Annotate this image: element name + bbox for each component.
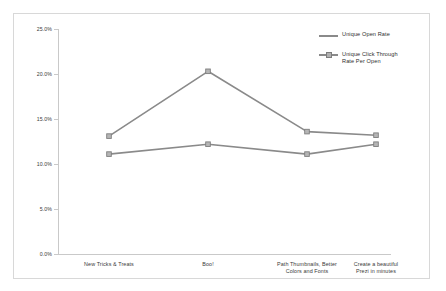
- y-tick-0: [54, 254, 58, 255]
- legend-label-1: Unique Click Through Rate Per Open: [342, 51, 398, 66]
- data-point-marker[interactable]: [206, 142, 211, 147]
- legend-line-square-icon-1: [319, 51, 338, 59]
- chart-legend: Unique Open Rate Unique Click Through Ra…: [319, 31, 431, 77]
- legend-line-icon-0: [319, 32, 338, 40]
- chart-container: 0.0% 5.0% 10.0% 15.0% 20.0% 25.0% New Tr…: [13, 13, 430, 279]
- series-line-1: [109, 144, 376, 154]
- x-axis-label-1: Boo!: [160, 261, 256, 268]
- data-point-marker[interactable]: [305, 129, 310, 134]
- y-axis-label-3: 15.0%: [37, 116, 52, 122]
- data-point-marker[interactable]: [107, 134, 112, 139]
- series-line-0: [109, 71, 376, 136]
- x-axis-label-0: New Tricks & Treats: [61, 261, 157, 268]
- y-axis-label-2: 10.0%: [37, 161, 52, 167]
- data-point-marker[interactable]: [305, 152, 310, 157]
- data-point-marker[interactable]: [107, 152, 112, 157]
- legend-item-unique-click-through-rate-per-open[interactable]: Unique Click Through Rate Per Open: [319, 51, 431, 66]
- y-axis-label-0: 0.0%: [40, 251, 52, 257]
- data-point-marker[interactable]: [206, 69, 211, 74]
- data-point-marker[interactable]: [374, 142, 379, 147]
- x-axis-label-3: Create a beautiful Prezi in minutes: [328, 261, 424, 276]
- data-point-marker[interactable]: [374, 133, 379, 138]
- y-axis-label-1: 5.0%: [40, 206, 52, 212]
- legend-item-unique-open-rate[interactable]: Unique Open Rate: [319, 31, 431, 40]
- y-axis-label-4: 20.0%: [37, 71, 52, 77]
- legend-label-0: Unique Open Rate: [342, 31, 390, 39]
- y-axis-label-5: 25.0%: [37, 26, 52, 32]
- x-axis-line: [58, 254, 391, 255]
